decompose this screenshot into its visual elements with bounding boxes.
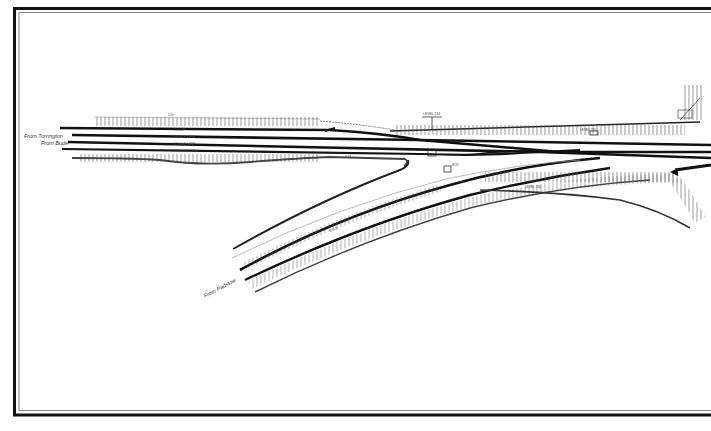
label-from-torrington: From Torrington xyxy=(24,133,63,139)
lower-embankment-left xyxy=(72,154,407,166)
label-middle-siding: MIDDLE SIDING xyxy=(172,149,199,153)
signal-level-label: LEVEL 234 xyxy=(423,112,440,116)
mile-post-label: 214 xyxy=(168,113,174,117)
branch-padstow xyxy=(232,158,690,292)
mid-mile-label: 1 16 xyxy=(345,155,351,159)
label-from-padstow: From Padstow xyxy=(203,276,238,298)
signal-box xyxy=(444,166,451,172)
right-level-label: LEVEL 226 xyxy=(580,128,596,132)
label-from-bude: From Bude xyxy=(41,140,68,146)
box-label: BOX xyxy=(452,163,460,167)
label-loop: LOOP xyxy=(175,128,186,132)
label-single-line-2: SINGLE LINE xyxy=(173,142,196,146)
lower-level-label: LEVEL 236 xyxy=(525,185,541,189)
track-plan-drawing: From Torrington From Bude From Padstow L… xyxy=(0,0,711,431)
label-single-line-1: SINGLE LINE xyxy=(173,135,196,139)
upper-embankment xyxy=(95,117,700,135)
